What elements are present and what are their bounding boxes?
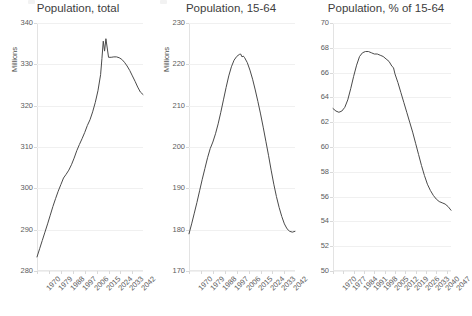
x-tick-mark xyxy=(374,271,375,274)
series-line xyxy=(189,23,295,271)
chart-panel-population-pct-15-64: Population, % of 15-64 50525456586062646… xyxy=(307,0,464,316)
x-tick-mark xyxy=(395,271,396,274)
x-tick-mark xyxy=(225,271,226,274)
y-tick-label: 210 xyxy=(163,102,185,110)
x-tick-mark xyxy=(249,271,250,274)
plot-area xyxy=(37,23,143,271)
x-tick-mark xyxy=(405,271,406,274)
chart-panel-population-15-64: Population, 15-64 Millions 1701801902002… xyxy=(152,0,307,316)
x-tick-mark xyxy=(284,271,285,274)
x-tick-mark xyxy=(109,271,110,274)
x-tick-mark xyxy=(132,271,133,274)
x-tick-mark xyxy=(189,271,190,274)
x-tick-mark xyxy=(97,271,98,274)
y-tick-label: 280 xyxy=(11,267,33,275)
series-line xyxy=(37,23,143,271)
series-line xyxy=(333,23,451,271)
x-tick-mark xyxy=(85,271,86,274)
y-tick-label: 310 xyxy=(11,143,33,151)
y-tick-label: 300 xyxy=(11,184,33,192)
x-tick-mark xyxy=(237,271,238,274)
x-tick-mark xyxy=(436,271,437,274)
y-tick-label: 220 xyxy=(163,60,185,68)
y-tick-label: 290 xyxy=(11,226,33,234)
x-tick-mark xyxy=(37,271,38,274)
x-tick-mark xyxy=(49,271,50,274)
y-gridline xyxy=(333,271,451,272)
x-tick-mark xyxy=(343,271,344,274)
panel-title: Population, total xyxy=(8,2,148,14)
panel-title: Population, % of 15-64 xyxy=(309,2,463,14)
y-gridline xyxy=(189,271,295,272)
x-tick-mark xyxy=(333,271,334,274)
x-tick-mark xyxy=(354,271,355,274)
y-tick-label: 330 xyxy=(11,60,33,68)
x-tick-mark xyxy=(385,271,386,274)
y-tick-label: 180 xyxy=(163,226,185,234)
panel-title: Population, 15-64 xyxy=(158,2,304,14)
y-tick-label: 68 xyxy=(307,44,329,52)
y-tick-label: 64 xyxy=(307,93,329,101)
y-tick-label: 50 xyxy=(307,267,329,275)
y-tick-label: 62 xyxy=(307,118,329,126)
x-tick-mark xyxy=(364,271,365,274)
x-tick-mark xyxy=(272,271,273,274)
x-tick-mark xyxy=(426,271,427,274)
plot-area xyxy=(189,23,295,271)
y-tick-label: 190 xyxy=(163,184,185,192)
y-tick-label: 340 xyxy=(11,19,33,27)
x-tick-mark xyxy=(416,271,417,274)
y-gridline xyxy=(37,271,143,272)
x-tick-mark xyxy=(261,271,262,274)
x-tick-mark xyxy=(120,271,121,274)
x-tick-mark xyxy=(201,271,202,274)
x-tick-mark xyxy=(447,271,448,274)
chart-panel-population-total: Population, total Millions 2802903003103… xyxy=(0,0,152,316)
y-tick-label: 200 xyxy=(163,143,185,151)
x-tick-mark xyxy=(213,271,214,274)
x-tick-mark xyxy=(73,271,74,274)
y-tick-label: 54 xyxy=(307,217,329,225)
y-tick-label: 58 xyxy=(307,168,329,176)
y-tick-label: 70 xyxy=(307,19,329,27)
y-tick-label: 56 xyxy=(307,193,329,201)
plot-area xyxy=(333,23,451,271)
y-tick-label: 170 xyxy=(163,267,185,275)
y-tick-label: 320 xyxy=(11,102,33,110)
y-tick-label: 230 xyxy=(163,19,185,27)
y-tick-label: 52 xyxy=(307,242,329,250)
y-tick-label: 66 xyxy=(307,69,329,77)
x-tick-mark xyxy=(61,271,62,274)
y-tick-label: 60 xyxy=(307,143,329,151)
